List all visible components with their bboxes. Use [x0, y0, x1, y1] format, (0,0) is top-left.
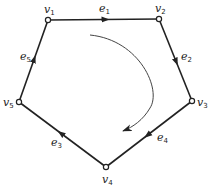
- vertex-v5: [16, 99, 21, 104]
- edge-label-e3: e3: [51, 136, 62, 150]
- edge-label-e5: e5: [20, 50, 31, 64]
- edge-e3: [19, 102, 106, 167]
- vertex-label-v3: v3: [197, 96, 208, 110]
- cycle-graph-diagram: e1e2e3e4e5v1v2v3v4v5: [0, 0, 209, 188]
- edge-label-e2: e2: [181, 50, 192, 64]
- clockwise-orientation-arrow: [90, 35, 153, 131]
- vertex-v3: [189, 98, 194, 103]
- vertex-label-v4: v4: [102, 173, 113, 187]
- edge-e1: [48, 19, 159, 20]
- labels-group: e1e2e3e4e5v1v2v3v4v5: [3, 2, 208, 187]
- edge-label-e1: e1: [99, 2, 110, 16]
- vertex-v1: [45, 17, 50, 22]
- edge-e4: [106, 101, 192, 167]
- vertex-label-v5: v5: [3, 96, 14, 110]
- vertex-v2: [156, 16, 161, 21]
- vertex-label-v1: v1: [44, 3, 55, 17]
- vertex-v4: [103, 164, 108, 169]
- vertex-label-v2: v2: [155, 2, 166, 16]
- edge-label-e4: e4: [157, 131, 169, 145]
